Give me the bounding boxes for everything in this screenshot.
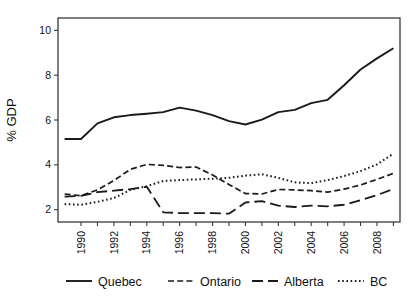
- chart-figure: 246810% GDP19901992199419961998200020022…: [0, 0, 417, 299]
- x-tick-label-2002: 2002: [272, 231, 284, 255]
- y-tick-label-10: 10: [39, 24, 51, 36]
- x-tick-label-1998: 1998: [206, 231, 218, 255]
- x-tick-label-2004: 2004: [305, 231, 317, 255]
- x-tick-label-1990: 1990: [75, 231, 87, 255]
- y-tick-label-2: 2: [45, 203, 51, 215]
- legend-label-ontario: Ontario: [200, 275, 241, 289]
- x-tick-label-2006: 2006: [338, 231, 350, 255]
- x-tick-label-1992: 1992: [108, 231, 120, 255]
- x-tick-label-1996: 1996: [173, 231, 185, 255]
- y-tick-label-8: 8: [45, 69, 51, 81]
- legend-label-quebec: Quebec: [98, 275, 142, 289]
- y-tick-label-6: 6: [45, 114, 51, 126]
- legend-label-alberta: Alberta: [284, 275, 324, 289]
- x-tick-label-2008: 2008: [371, 231, 383, 255]
- series-line-alberta: [65, 187, 394, 214]
- series-line-bc: [65, 154, 394, 205]
- y-tick-label-4: 4: [45, 158, 51, 170]
- legend-label-bc: BC: [370, 275, 387, 289]
- x-tick-label-1994: 1994: [140, 231, 152, 255]
- gdp-line-chart: 246810% GDP19901992199419961998200020022…: [0, 0, 417, 299]
- series-line-quebec: [65, 48, 394, 139]
- x-tick-label-2000: 2000: [239, 231, 251, 255]
- y-axis-label: % GDP: [4, 98, 19, 141]
